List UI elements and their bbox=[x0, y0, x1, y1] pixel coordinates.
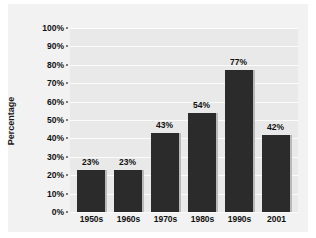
y-axis-title: Percentage bbox=[6, 66, 16, 176]
bar-slot: 23% bbox=[110, 28, 147, 212]
bar-slot: 23% bbox=[73, 28, 110, 212]
bar-value-label: 23% bbox=[82, 157, 99, 167]
y-axis-tick-mark bbox=[66, 119, 68, 121]
bar[interactable]: 77% bbox=[225, 70, 255, 212]
y-axis-tick-mark bbox=[66, 156, 68, 158]
y-axis-tick-label: 40% bbox=[28, 133, 64, 143]
y-axis-tick-mark bbox=[66, 211, 68, 213]
x-axis-tick-label: 1980s bbox=[184, 214, 221, 224]
bar[interactable]: 42% bbox=[262, 135, 292, 212]
y-axis-tick-label: 80% bbox=[28, 60, 64, 70]
bar-value-label: 77% bbox=[230, 57, 247, 67]
y-axis-tick-mark bbox=[66, 137, 68, 139]
bar-value-label: 54% bbox=[193, 100, 210, 110]
bar-series: 23%23%43%54%77%42% bbox=[70, 28, 298, 212]
bar[interactable]: 23% bbox=[77, 170, 107, 212]
bar-value-label: 43% bbox=[156, 120, 173, 130]
plot-area: 23%23%43%54%77%42% bbox=[70, 28, 298, 212]
y-axis-tick-label: 50% bbox=[28, 115, 64, 125]
x-axis-tick-label: 1990s bbox=[221, 214, 258, 224]
bar[interactable]: 23% bbox=[114, 170, 144, 212]
y-axis-tick-mark bbox=[66, 64, 68, 66]
bar-value-label: 23% bbox=[119, 157, 136, 167]
y-axis-tick-label: 100% bbox=[28, 23, 64, 33]
y-axis-tick-mark bbox=[66, 82, 68, 84]
y-axis-tick-label: 90% bbox=[28, 41, 64, 51]
bar-slot: 77% bbox=[221, 28, 258, 212]
chart-figure: Percentage 100%90%80%70%60%50%40%30%20%1… bbox=[8, 4, 308, 232]
x-axis-tick-label: 1950s bbox=[73, 214, 110, 224]
y-axis-tick-label: 30% bbox=[28, 152, 64, 162]
x-axis-tick-label: 1970s bbox=[147, 214, 184, 224]
gridline bbox=[70, 212, 298, 213]
x-axis-tick-label: 2001 bbox=[258, 214, 295, 224]
bar-value-label: 42% bbox=[267, 122, 284, 132]
y-axis-tick-label: 20% bbox=[28, 170, 64, 180]
y-axis-tick-mark bbox=[66, 193, 68, 195]
y-axis-tick-labels: 100%90%80%70%60%50%40%30%20%10%0% bbox=[28, 28, 64, 212]
y-axis-tick-mark bbox=[66, 27, 68, 29]
bar-slot: 54% bbox=[184, 28, 221, 212]
y-axis-tick-label: 60% bbox=[28, 97, 64, 107]
y-axis-tick-mark bbox=[66, 174, 68, 176]
bar[interactable]: 54% bbox=[188, 113, 218, 212]
y-axis-tick-label: 10% bbox=[28, 189, 64, 199]
bar-slot: 43% bbox=[147, 28, 184, 212]
y-axis-tick-mark bbox=[66, 45, 68, 47]
y-axis-tick-label: 0% bbox=[28, 207, 64, 217]
x-axis-tick-label: 1960s bbox=[110, 214, 147, 224]
bar-slot: 42% bbox=[258, 28, 295, 212]
y-axis-tick-label: 70% bbox=[28, 78, 64, 88]
x-axis-tick-labels: 1950s1960s1970s1980s1990s2001 bbox=[70, 214, 298, 224]
bar[interactable]: 43% bbox=[151, 133, 181, 212]
y-axis-tick-mark bbox=[66, 101, 68, 103]
